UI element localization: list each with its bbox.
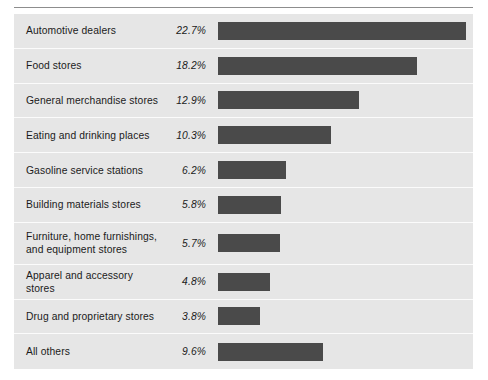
bar (218, 91, 359, 109)
bar-cell (206, 265, 473, 299)
value-label: 18.2% (160, 60, 206, 71)
chart-row: All others9.6% (14, 334, 473, 369)
chart-row: Automotive dealers22.7% (14, 14, 473, 49)
bar-chart-figure: Automotive dealers22.7%Food stores18.2%G… (0, 0, 488, 380)
category-label: Automotive dealers (14, 24, 160, 37)
bar (218, 161, 286, 179)
bar-cell (206, 118, 473, 152)
bar (218, 22, 466, 40)
category-label: Furniture, home furnishings, and equipme… (14, 230, 160, 256)
bar (218, 343, 323, 361)
bar (218, 57, 417, 75)
bar (218, 234, 280, 252)
chart-row: Furniture, home furnishings, and equipme… (14, 223, 473, 265)
value-label: 3.8% (160, 311, 206, 322)
bar (218, 273, 270, 291)
bar-cell (206, 84, 473, 118)
bar (218, 307, 260, 325)
value-label: 10.3% (160, 130, 206, 141)
bar-cell (206, 49, 473, 83)
category-label: All others (14, 345, 160, 358)
chart-rows: Automotive dealers22.7%Food stores18.2%G… (14, 14, 473, 369)
chart-row: Building materials stores5.8% (14, 188, 473, 223)
chart-panel: Automotive dealers22.7%Food stores18.2%G… (14, 14, 473, 362)
value-label: 4.8% (160, 276, 206, 287)
bar-cell (206, 153, 473, 187)
category-label: Drug and proprietary stores (14, 310, 160, 323)
chart-row: General merchandise stores12.9% (14, 84, 473, 119)
value-label: 9.6% (160, 346, 206, 357)
category-label: Eating and drinking places (14, 129, 160, 142)
header-rule (14, 7, 473, 8)
category-label: Food stores (14, 59, 160, 72)
value-label: 5.8% (160, 199, 206, 210)
value-label: 5.7% (160, 238, 206, 249)
chart-row: Apparel and accessory stores4.8% (14, 265, 473, 300)
category-label: General merchandise stores (14, 94, 160, 107)
category-label: Building materials stores (14, 198, 160, 211)
value-label: 12.9% (160, 95, 206, 106)
chart-row: Eating and drinking places10.3% (14, 118, 473, 153)
bar-cell (206, 223, 473, 264)
bar (218, 126, 331, 144)
bar-cell (206, 300, 473, 334)
bar (218, 196, 281, 214)
category-label: Apparel and accessory stores (14, 269, 160, 295)
chart-row: Gasoline service stations6.2% (14, 153, 473, 188)
bar-cell (206, 334, 473, 369)
value-label: 22.7% (160, 25, 206, 36)
bar-cell (206, 14, 473, 48)
value-label: 6.2% (160, 165, 206, 176)
bar-cell (206, 188, 473, 222)
chart-row: Food stores18.2% (14, 49, 473, 84)
chart-row: Drug and proprietary stores3.8% (14, 300, 473, 335)
category-label: Gasoline service stations (14, 164, 160, 177)
